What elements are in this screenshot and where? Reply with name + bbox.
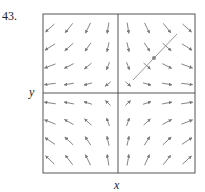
field-arrow [85,23,90,33]
field-arrow [64,64,73,69]
field-arrow [64,83,74,85]
field-arrow [162,102,172,104]
field-arrow [144,137,150,146]
field-arrow [107,155,109,166]
field-arrow [107,118,110,126]
field-arrow [44,83,55,84]
field-arrow [163,137,171,145]
field-arrow [126,62,129,70]
field-arrow [163,23,171,32]
field-arrow [144,43,150,51]
initial-point [152,56,156,60]
solution-curve [133,34,177,80]
field-arrow [45,138,55,145]
field-arrows [44,23,192,166]
field-arrow [181,64,192,68]
plot-frame [43,14,195,173]
field-arrow [65,155,72,164]
field-arrow [64,119,73,124]
field-arrow [65,43,73,50]
field-arrow [65,137,73,145]
field-arrow [181,120,192,124]
field-arrow [64,102,74,104]
field-arrow [127,155,129,166]
field-arrow [107,136,109,145]
field-arrow [85,119,92,125]
field-arrow [183,24,192,32]
field-arrow [181,83,192,84]
field-arrow [162,119,171,124]
field-arrow [85,43,91,51]
field-arrow [127,42,129,51]
field-arrow [125,82,130,87]
field-arrow [145,23,150,33]
field-arrow [181,102,192,104]
field-arrow [127,136,129,145]
field-arrow [127,23,129,34]
field-arrow [162,64,171,69]
field-arrow [44,64,55,68]
field-arrow [182,138,192,145]
field-arrow [145,155,150,165]
field-arrow [46,24,55,32]
field-arrow [85,137,91,146]
field-arrow [85,63,92,69]
field-arrow [127,118,130,126]
field-arrow [143,102,151,105]
field-arrow [106,62,109,70]
field-arrow [125,101,130,106]
field-arrow [86,155,91,165]
field-arrow [143,83,151,85]
field-arrow [105,82,110,87]
field-arrow [84,83,92,85]
field-arrow [44,102,55,104]
field-arrow [44,120,55,124]
field-arrow [182,44,192,50]
vector-field-plot [0,0,205,192]
field-arrow [162,83,172,85]
field-arrow [45,44,55,50]
field-arrow [163,155,170,164]
field-arrow [107,23,109,34]
field-arrow [144,119,151,125]
field-arrow [46,156,55,164]
field-arrow [107,42,109,51]
field-arrow [84,102,92,105]
field-arrow [105,101,110,106]
field-arrow [183,156,192,164]
field-arrow [65,23,73,32]
